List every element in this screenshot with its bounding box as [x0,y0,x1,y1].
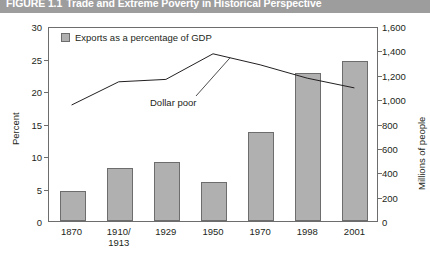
figure-container: FIGURE 1.1Trade and Extreme Poverty in H… [0,0,430,256]
x-axis-tick-line: 2001 [324,226,384,237]
legend: Exports as a percentage of GDP [61,32,212,43]
x-axis-tick-line: 1913 [89,237,149,248]
legend-swatch-exports [61,33,70,42]
legend-label-exports: Exports as a percentage of GDP [75,32,212,43]
line-path [72,54,355,105]
annotation-dollar-poor: Dollar poor [150,97,196,108]
x-axis-tick: 2001 [324,226,384,237]
annotation-leader-line [196,58,230,96]
